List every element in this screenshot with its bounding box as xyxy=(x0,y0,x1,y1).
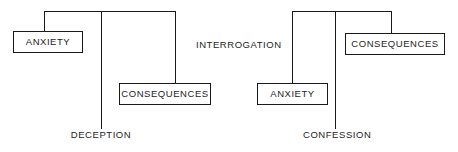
node-left-consequences-label: CONSEQUENCES xyxy=(121,89,208,99)
left-tree-top-connector xyxy=(44,11,176,13)
root-label-deception: DECEPTION xyxy=(70,130,132,140)
center-label-interrogation: INTERROGATION xyxy=(196,40,282,50)
node-left-anxiety[interactable]: ANXIETY xyxy=(13,31,83,53)
node-left-consequences[interactable]: CONSEQUENCES xyxy=(119,83,211,105)
right-root-stem xyxy=(335,11,337,129)
node-right-anxiety[interactable]: ANXIETY xyxy=(257,83,328,105)
tree-diagram-canvas: ANXIETY CONSEQUENCES DECEPTION INTERROGA… xyxy=(0,0,458,152)
node-right-anxiety-label: ANXIETY xyxy=(270,89,315,99)
node-left-anxiety-label: ANXIETY xyxy=(26,37,71,47)
node-right-consequences[interactable]: CONSEQUENCES xyxy=(345,33,445,55)
left-root-stem xyxy=(101,11,103,129)
left-consequences-connector xyxy=(175,11,177,84)
node-right-consequences-label: CONSEQUENCES xyxy=(351,39,438,49)
right-anxiety-connector xyxy=(292,11,294,84)
left-anxiety-connector xyxy=(44,11,46,32)
root-label-confession: CONFESSION xyxy=(303,130,367,140)
right-tree-top-connector xyxy=(292,11,392,13)
right-consequences-connector xyxy=(391,11,393,34)
